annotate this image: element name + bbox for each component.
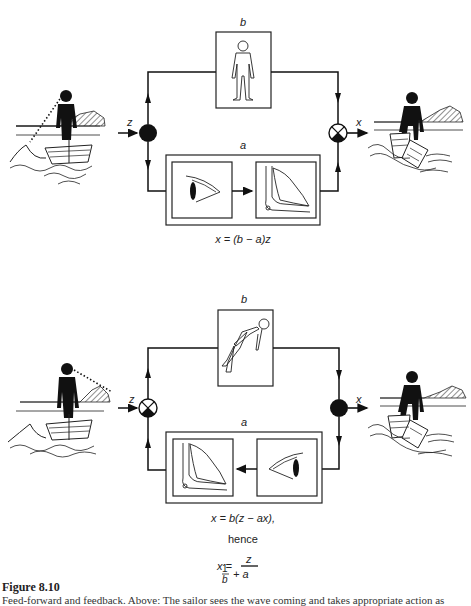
label-b: b [240,16,246,28]
figure-caption: Feed-forward and feedback. Above: The sa… [2,594,444,606]
bottom-equation-1: x = b(z − ax), [188,512,298,524]
summing-junction-icon [139,399,157,417]
label-a: a [241,416,247,428]
branch-point-icon [139,124,157,142]
summing-junction-icon [329,124,347,142]
figure-title: Figure 8.10 [2,580,60,595]
box-b [218,310,273,386]
fraction-numerator: z [246,553,252,565]
fraction-tail: + a [233,568,249,580]
box-b [216,32,271,108]
fraction-b: b [222,574,228,585]
label-b: b [241,293,247,305]
top-equation: x = (b − a)z [193,233,293,245]
output-label-x: x [356,116,362,128]
sailor-capsizing-illustration [368,371,466,456]
sailor-sees-wave-illustration [10,90,105,184]
sailor-capsizing-illustration [368,92,463,172]
top-feedforward-diagram [10,32,463,225]
output-label-x: x [356,393,362,405]
input-label-z: z [129,393,135,405]
bottom-equation-hence: hence [208,533,278,545]
fraction-one: 1 [222,563,228,574]
branch-point-icon [330,399,348,417]
label-a: a [240,139,246,151]
input-label-z: z [127,116,133,128]
sailor-looks-shore-illustration [8,363,112,457]
